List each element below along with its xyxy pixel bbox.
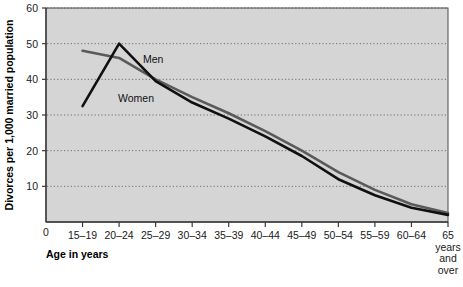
x-tick-label: 60–64	[397, 229, 426, 241]
x-tick-label: 45–49	[287, 229, 316, 241]
y-tick-label: 60	[26, 2, 38, 14]
y-axis-ticks: 102030405060	[26, 2, 46, 192]
x-tick-label-continuation: and	[439, 252, 457, 264]
x-tick-label: 30–34	[178, 229, 207, 241]
x-axis-ticks: 15–1920–2425–2930–3435–3940–4445–4950–54…	[68, 222, 461, 276]
y-axis-title: Divorces per 1,000 married population	[3, 20, 15, 211]
series-label-men: Men	[143, 53, 164, 65]
x-tick-label: 65	[442, 229, 454, 241]
x-tick-label: 55–59	[360, 229, 389, 241]
x-tick-label-continuation: over	[438, 264, 459, 276]
x-tick-label: 50–54	[324, 229, 353, 241]
line-chart: 102030405060 15–1920–2425–2930–3435–3940…	[0, 0, 463, 287]
x-tick-label: 40–44	[251, 229, 280, 241]
x-axis-title: Age in years	[46, 248, 109, 260]
x-tick-label: 25–29	[141, 229, 170, 241]
series-label-women: Women	[118, 92, 154, 104]
x-tick-label: 35–39	[214, 229, 243, 241]
chart-figure: 102030405060 15–1920–2425–2930–3435–3940…	[0, 0, 463, 287]
y-tick-label: 40	[26, 73, 38, 85]
y-tick-label: 20	[26, 145, 38, 157]
y-tick-label: 10	[26, 180, 38, 192]
y-tick-label: 50	[26, 38, 38, 50]
x-axis-origin-label: 0	[43, 226, 49, 238]
y-tick-label: 30	[26, 109, 38, 121]
x-tick-label: 15–19	[68, 229, 97, 241]
x-tick-label-continuation: years	[435, 241, 461, 253]
x-tick-label: 20–24	[104, 229, 133, 241]
